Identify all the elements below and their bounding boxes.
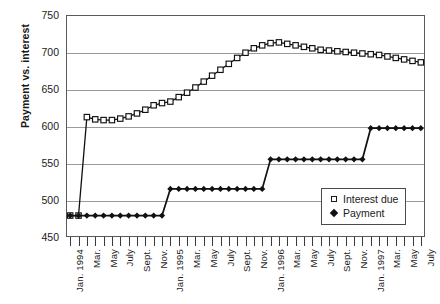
data-point-payment — [301, 156, 307, 162]
x-axis-tick — [104, 237, 105, 246]
data-point-payment — [351, 156, 357, 162]
legend-item-payment: Payment — [327, 206, 398, 220]
data-point-payment — [126, 212, 132, 218]
x-axis-tick-label: Jan. 1996 — [275, 249, 286, 292]
data-point-interest-due — [226, 61, 231, 66]
data-point-payment — [334, 156, 340, 162]
data-point-interest-due — [84, 114, 89, 119]
x-axis-tick-label: Mar. — [91, 249, 102, 268]
data-point-interest-due — [410, 58, 415, 63]
x-axis-tick — [354, 237, 355, 246]
data-point-interest-due — [151, 103, 156, 108]
y-axis-tick-label: 450 — [23, 231, 59, 243]
x-axis-tick — [246, 237, 247, 246]
data-point-payment — [259, 186, 265, 192]
x-axis-tick-label: May — [408, 249, 419, 267]
data-point-interest-due — [268, 40, 273, 45]
x-axis-tick-label: May — [108, 249, 119, 267]
x-axis-tick — [70, 237, 71, 246]
x-axis-tick — [204, 237, 205, 246]
x-axis-tick — [279, 237, 280, 246]
data-point-payment — [234, 186, 240, 192]
y-axis-tick-label: 600 — [23, 120, 59, 132]
data-point-payment — [326, 156, 332, 162]
legend-label-payment: Payment — [343, 207, 384, 219]
chart-legend: Interest due Payment — [321, 188, 406, 225]
data-point-payment — [226, 186, 232, 192]
data-point-payment — [109, 212, 115, 218]
data-point-payment — [309, 156, 315, 162]
data-point-payment — [167, 186, 173, 192]
x-axis-tick-label: Nov. — [358, 249, 369, 268]
data-point-interest-due — [393, 55, 398, 60]
data-point-payment — [142, 212, 148, 218]
y-axis-tick-label: 750 — [23, 9, 59, 21]
data-point-interest-due — [143, 107, 148, 112]
x-axis-tick — [296, 237, 297, 246]
y-axis-tick-label: 550 — [23, 157, 59, 169]
y-axis-title: Payment vs. interest — [19, 0, 31, 161]
x-axis-tick-label: Jan. 1994 — [74, 249, 85, 292]
x-axis-tick-label: July — [425, 249, 436, 266]
data-point-payment — [100, 212, 106, 218]
x-axis-tick — [87, 237, 88, 246]
data-point-interest-due — [234, 55, 239, 60]
data-point-payment — [318, 156, 324, 162]
x-axis-tick — [362, 237, 363, 246]
data-point-payment — [292, 156, 298, 162]
data-point-interest-due — [376, 52, 381, 57]
x-axis-tick — [112, 237, 113, 246]
x-axis-tick-label: Sept. — [241, 249, 252, 272]
x-axis-tick — [145, 237, 146, 246]
x-axis-tick — [254, 237, 255, 246]
x-axis-tick-label: Mar. — [291, 249, 302, 268]
x-axis-tick-label: May — [208, 249, 219, 267]
x-axis-tick-label: Jan. 1995 — [174, 249, 185, 292]
data-point-payment — [92, 212, 98, 218]
data-point-interest-due — [101, 117, 106, 122]
x-axis-tick — [221, 237, 222, 246]
x-axis-tick-label: Sept. — [341, 249, 352, 272]
y-axis-tick-label: 700 — [23, 46, 59, 58]
filled-diamond-icon — [327, 210, 340, 216]
data-point-interest-due — [318, 47, 323, 52]
data-point-payment — [151, 212, 157, 218]
x-axis-tick — [396, 237, 397, 246]
x-axis-tick — [262, 237, 263, 246]
x-axis-tick-label: Mar. — [391, 249, 402, 268]
data-point-payment — [368, 125, 374, 131]
x-axis-tick — [404, 237, 405, 246]
x-axis-tick — [321, 237, 322, 246]
data-point-payment — [251, 186, 257, 192]
x-axis-tick — [379, 237, 380, 246]
data-point-payment — [134, 212, 140, 218]
data-point-interest-due — [351, 50, 356, 55]
data-point-interest-due — [385, 54, 390, 59]
x-axis-tick — [120, 237, 121, 246]
data-point-payment — [209, 186, 215, 192]
data-point-interest-due — [243, 50, 248, 55]
x-axis-tick — [237, 237, 238, 246]
data-point-payment — [159, 212, 165, 218]
x-axis-tick — [337, 237, 338, 246]
x-axis-tick — [170, 237, 171, 246]
data-point-payment — [393, 125, 399, 131]
x-axis-tick-label: Nov. — [258, 249, 269, 268]
x-axis-tick — [154, 237, 155, 246]
x-axis-tick — [229, 237, 230, 246]
x-axis-tick-label: Jan. 1997 — [375, 249, 386, 292]
data-point-interest-due — [260, 43, 265, 48]
x-axis-tick-label: July — [124, 249, 135, 266]
x-axis-tick — [187, 237, 188, 246]
x-axis-tick — [346, 237, 347, 246]
x-axis-tick-label: Sept. — [141, 249, 152, 272]
data-point-interest-due — [126, 114, 131, 119]
data-point-interest-due — [184, 90, 189, 95]
open-square-icon — [327, 196, 340, 202]
data-point-interest-due — [360, 51, 365, 56]
x-axis-tick — [179, 237, 180, 246]
data-point-interest-due — [310, 46, 315, 51]
data-point-payment — [184, 186, 190, 192]
data-point-interest-due — [276, 40, 281, 45]
x-axis-tick — [137, 237, 138, 246]
